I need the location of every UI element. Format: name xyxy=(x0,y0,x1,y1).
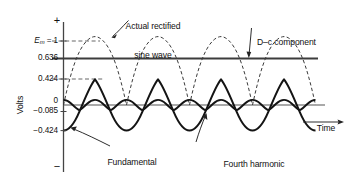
rectified-waveform-figure: + − Volts Em = 1 0.636 0.424 0 −0.085 −0… xyxy=(0,0,359,187)
annotation-actual-rectified-sine-wave: Actual rectified sine wave xyxy=(105,3,201,80)
annotation-fourth-harmonic: Fourth harmonic of line frequency xyxy=(200,141,308,187)
annotation-dc-line-1: D–c component xyxy=(257,38,355,48)
annotation-fourth-line-1: Fourth harmonic xyxy=(200,160,308,170)
y-axis-plus-sign: + xyxy=(50,14,64,26)
tick-label-0424: 0.424 xyxy=(2,74,58,83)
x-axis-title-time: Time xyxy=(306,124,346,134)
annotation-fundamental-line-1: Fundamental xyxy=(96,158,168,168)
annotation-fundamental-component: Fundamental component (twice line freque… xyxy=(96,139,168,187)
annotation-dc-component: D–c component xyxy=(257,19,355,67)
y-axis-minus-sign: − xyxy=(50,160,64,172)
annotation-actual-line-2: sine wave xyxy=(105,51,201,61)
tick-label-0636: 0.636 xyxy=(2,53,58,62)
annotation-actual-line-1: Actual rectified xyxy=(105,22,201,32)
tick-label-neg0085: −0.085 xyxy=(2,106,58,115)
tick-label-zero: 0 xyxy=(2,96,58,105)
gridline-leaders xyxy=(52,41,104,79)
tick-label-neg0424: −0.424 xyxy=(2,126,58,135)
tick-label-em: Em = 1 xyxy=(2,36,58,46)
